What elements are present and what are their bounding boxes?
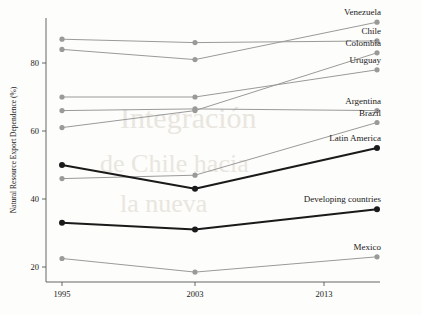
line-chart: Integraciónde Chile haciala nueva2040608… <box>0 0 422 315</box>
series-line <box>62 70 377 97</box>
data-point[interactable] <box>59 125 64 130</box>
x-axis-ticks: 199520032013 <box>54 282 333 299</box>
series-label: Chile <box>362 26 382 36</box>
y-tick-label: 80 <box>31 58 40 68</box>
series-chile[interactable]: Chile <box>59 26 381 45</box>
series-label: Venezuela <box>344 7 381 17</box>
x-tick-label: 1995 <box>54 289 71 299</box>
series-developing-countries[interactable]: Developing countries <box>59 194 381 232</box>
chart-container: Integraciónde Chile haciala nueva2040608… <box>0 0 422 315</box>
y-tick-label: 20 <box>31 262 40 272</box>
data-point[interactable] <box>192 57 197 62</box>
data-point[interactable] <box>59 47 64 52</box>
data-point[interactable] <box>374 145 380 151</box>
series-mexico[interactable]: Mexico <box>59 242 381 275</box>
data-point[interactable] <box>374 20 379 25</box>
series-label: Brazil <box>359 108 381 118</box>
series-label: Latin America <box>329 133 381 143</box>
data-point[interactable] <box>192 94 197 99</box>
data-point[interactable] <box>59 108 64 113</box>
data-point[interactable] <box>59 37 64 42</box>
data-point[interactable] <box>59 176 64 181</box>
data-point[interactable] <box>59 162 65 168</box>
bleed-through-text: Integraciónde Chile haciala nueva <box>100 101 257 218</box>
data-point[interactable] <box>374 120 379 125</box>
data-point[interactable] <box>374 254 379 259</box>
data-point[interactable] <box>192 270 197 275</box>
x-tick-label: 2013 <box>316 289 333 299</box>
data-point[interactable] <box>59 94 64 99</box>
data-point[interactable] <box>374 67 379 72</box>
data-point[interactable] <box>59 256 64 261</box>
data-point[interactable] <box>192 40 197 45</box>
series-line <box>62 257 377 272</box>
x-tick-label: 2003 <box>187 289 204 299</box>
series-group: VenezuelaChileColombiaUruguayArgentinaBr… <box>59 7 381 275</box>
data-point[interactable] <box>374 206 380 212</box>
data-point[interactable] <box>192 173 197 178</box>
y-axis-title-text: Natural Resource Export Dependence (%) <box>9 86 18 213</box>
data-point[interactable] <box>192 227 198 233</box>
bleed-through-line: de Chile hacia <box>100 149 249 178</box>
series-label: Argentina <box>345 96 381 106</box>
series-label: Uruguay <box>350 55 382 65</box>
series-line <box>62 39 377 42</box>
y-tick-label: 40 <box>31 194 40 204</box>
series-line <box>62 209 377 229</box>
series-uruguay[interactable]: Uruguay <box>59 55 381 100</box>
y-axis-ticks: 20406080 <box>31 58 47 272</box>
data-point[interactable] <box>192 186 198 192</box>
data-point[interactable] <box>192 106 197 111</box>
y-axis-title: Natural Resource Export Dependence (%) <box>9 86 18 213</box>
series-label: Mexico <box>354 242 382 252</box>
y-tick-label: 60 <box>31 126 40 136</box>
series-label: Developing countries <box>304 194 382 204</box>
series-label: Colombia <box>346 38 382 48</box>
bleed-through-line: la nueva <box>120 189 208 218</box>
data-point[interactable] <box>59 220 65 226</box>
series-venezuela[interactable]: Venezuela <box>59 7 381 62</box>
